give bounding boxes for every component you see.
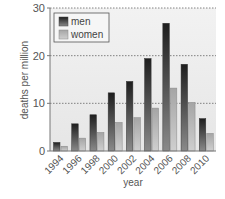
legend-swatch-men [59,17,68,26]
bar-women-2000 [116,122,123,151]
bar-men-2000 [108,93,115,151]
bar-men-1998 [90,115,97,151]
bar-men-2010 [199,119,206,151]
bar-women-2008 [189,102,196,151]
bar-men-2002 [126,81,133,151]
x-tick-label: 2006 [151,152,175,176]
x-tick-label: 2008 [170,152,194,176]
bar-men-2006 [163,23,170,151]
x-tick-label: 2010 [188,152,212,176]
bar-women-2002 [134,118,141,151]
bar-women-1994 [61,146,68,151]
bar-men-2008 [181,64,188,151]
x-tick-label: 1998 [78,152,102,176]
x-tick-label: 2004 [133,152,157,176]
bar-women-2010 [207,133,214,151]
x-tick-label: 2000 [97,152,121,176]
bar-men-1994 [54,142,61,151]
bar-women-1996 [79,138,86,151]
x-tick-label: 2002 [115,152,139,176]
y-tick-label: 0 [39,145,45,157]
y-tick-label: 30 [33,2,45,14]
legend-label-men: men [71,16,90,27]
y-tick-label: 10 [33,97,45,109]
bar-women-2004 [152,108,159,151]
bar-women-2006 [170,88,177,151]
legend-label-women: women [70,29,103,40]
legend: men women [54,13,109,42]
y-tick-label: 20 [33,50,45,62]
x-tick-label: 1994 [42,152,66,176]
y-axis-label: deaths per million [19,41,30,119]
bar-men-2004 [145,59,152,151]
x-tick-label: 1996 [60,152,84,176]
x-axis-label: year [123,177,143,188]
legend-swatch-women [59,30,68,39]
bar-chart: 0102030 19941996199820002002200420062008… [0,0,225,199]
bar-women-1998 [97,132,104,151]
bar-men-1996 [72,124,79,151]
